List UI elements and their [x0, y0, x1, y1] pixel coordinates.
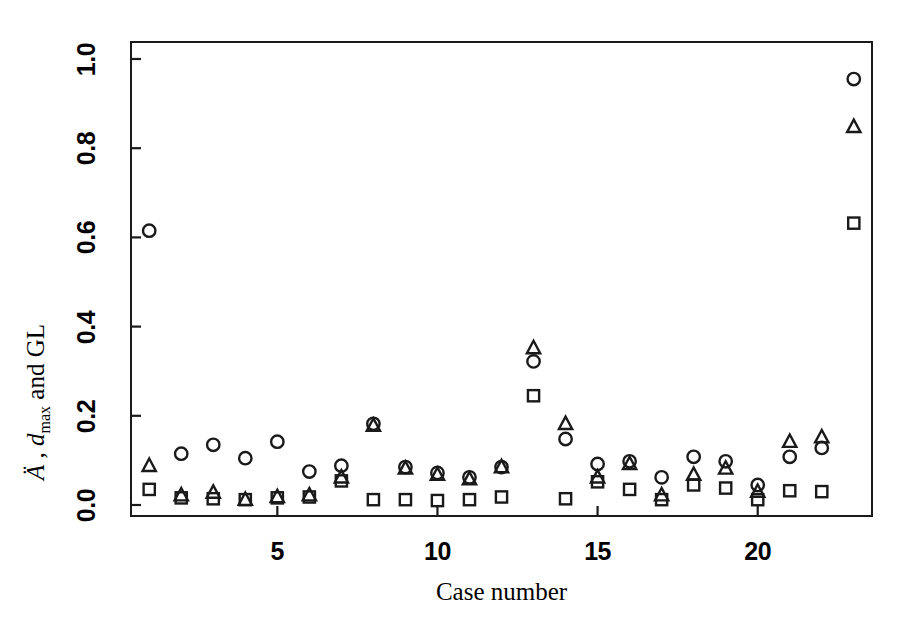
y-tick-label: 0.2	[72, 386, 101, 446]
y-axis-label-subscript: max	[36, 406, 53, 434]
y-tick-label: 0.6	[72, 208, 101, 268]
x-tick-label: 10	[407, 537, 467, 566]
y-tick-label: 0.0	[72, 476, 101, 536]
y-tick-label: 0.4	[72, 297, 101, 357]
plot-frame	[130, 41, 873, 517]
x-axis-label: Case number	[130, 578, 873, 606]
x-tick-label: 5	[247, 537, 307, 566]
x-tick-label: 20	[728, 537, 788, 566]
x-tick-label: 15	[568, 537, 628, 566]
y-axis-label-d: d	[22, 433, 49, 446]
y-axis-label-tail: and GL	[22, 324, 49, 406]
y-tick-label: 1.0	[72, 30, 101, 90]
y-tick-label: 0.8	[72, 119, 101, 179]
y-axis-label-comma: ,	[22, 446, 49, 465]
y-axis-label: Ä , dmax and GL	[22, 60, 54, 480]
y-axis-label-a: Ä	[22, 465, 49, 480]
figure-container: Ä , dmax and GL Case number 0.00.20.40.6…	[0, 0, 913, 636]
